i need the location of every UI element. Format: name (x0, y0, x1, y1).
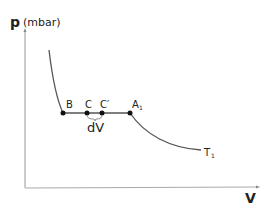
point-c-prime (100, 111, 105, 116)
label-b: B (66, 99, 73, 110)
point-c (85, 111, 90, 116)
label-a-subscript: 1 (139, 104, 143, 111)
x-axis (25, 187, 257, 188)
label-a: A (132, 99, 139, 110)
x-axis-symbol: V (245, 190, 256, 206)
label-c-prime: C′ (100, 99, 110, 110)
point-b (61, 111, 66, 116)
label-dv: dV (87, 120, 104, 135)
x-axis-arrow-icon (256, 186, 260, 189)
y-axis-symbol: p (10, 14, 20, 30)
point-a1 (128, 111, 133, 116)
pv-diagram: p (mbar) V B C C′ A 1 dV T 1 (0, 0, 269, 208)
label-t-subscript: 1 (211, 152, 215, 159)
label-c: C (85, 99, 92, 110)
y-axis-unit: (mbar) (23, 16, 61, 29)
label-t: T (203, 147, 211, 158)
isotherm-curve (130, 113, 201, 150)
liquid-branch-curve (49, 50, 63, 113)
